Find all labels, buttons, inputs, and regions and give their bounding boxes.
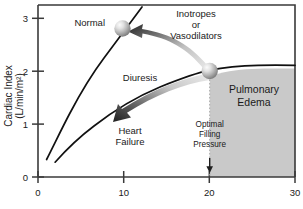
annotation-optimal-line3: Pressure [193, 140, 226, 149]
annotation-heart-failure-line1: Heart [118, 125, 142, 136]
annotation-optimal-line2: Filling [199, 130, 221, 139]
annotation-normal: Normal [74, 17, 105, 28]
x-tick-label-20: 20 [204, 187, 215, 198]
normal-point-marker [114, 20, 130, 36]
x-tick-label-10: 10 [118, 187, 129, 198]
annotation-heart-failure: Heart Failure [115, 125, 144, 147]
y-axis-title: Cardiac Index (L/min/m²) [3, 65, 25, 127]
y-tick-label-1: 1 [23, 119, 28, 130]
annotation-diuresis: Diuresis [123, 72, 158, 83]
annotation-inotropes-line2: or [192, 19, 200, 30]
x-tick-label-0: 0 [35, 187, 40, 198]
x-tick-label-30: 30 [290, 187, 301, 198]
optimal-point-marker [202, 63, 218, 79]
cardiac-function-curve-figure: 0 1 2 3 0 10 20 30 Cardiac Index (L/min/… [0, 0, 303, 209]
annotation-pulmonary-line1: Pulmonary [229, 83, 280, 95]
y-axis-title-line2: (L/min/m²) [14, 73, 25, 119]
annotation-inotropes-line3: Vasodilators [170, 30, 222, 41]
chart-canvas: 0 1 2 3 0 10 20 30 Cardiac Index (L/min/… [0, 0, 303, 209]
annotation-heart-failure-line2: Failure [115, 136, 144, 147]
annotation-pulmonary-line2: Edema [237, 96, 270, 108]
y-tick-label-3: 3 [23, 13, 28, 24]
annotation-optimal-line1: Optimal [196, 120, 224, 129]
y-tick-label-0: 0 [23, 172, 28, 183]
y-axis-title-line1: Cardiac Index [3, 65, 14, 127]
annotation-inotropes-line1: Inotropes [176, 8, 216, 19]
